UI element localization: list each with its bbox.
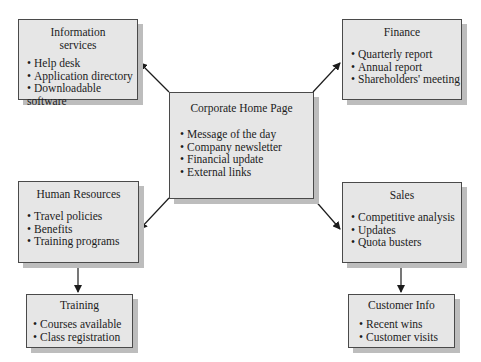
- list-item: Benefits: [27, 223, 138, 236]
- node-title: Information services: [19, 26, 137, 52]
- node-items: Message of the day Company newsletter Fi…: [170, 128, 313, 178]
- arrow-center-to-sales: [313, 198, 340, 229]
- list-item: Recent wins: [359, 318, 454, 331]
- list-item: Financial update: [180, 153, 313, 166]
- node-training: Training Courses available Class registr…: [26, 294, 133, 348]
- node-title: Customer Info: [349, 299, 454, 312]
- node-items: Courses available Class registration: [27, 318, 132, 343]
- node-title: Human Resources: [19, 188, 138, 201]
- node-corporate-home-page: Corporate Home Page Message of the day C…: [169, 92, 314, 199]
- list-item: Updates: [351, 224, 461, 237]
- node-information-services: Information services Help desk Applicati…: [18, 19, 138, 100]
- list-item: Quarterly report: [351, 48, 461, 61]
- node-items: Competitive analysis Updates Quota buste…: [343, 211, 461, 249]
- node-title: Sales: [343, 189, 461, 202]
- list-item: External links: [180, 166, 313, 179]
- arrow-center-to-human-resources: [140, 198, 169, 229]
- list-item: Downloadable software: [27, 82, 137, 107]
- arrow-center-to-finance: [313, 63, 340, 92]
- list-item: Message of the day: [180, 128, 313, 141]
- list-item: Class registration: [33, 331, 132, 344]
- title-line-2: services: [19, 39, 137, 52]
- node-items: Recent wins Customer visits: [349, 318, 454, 343]
- list-item: Customer visits: [359, 331, 454, 344]
- node-items: Help desk Application directory Download…: [19, 57, 137, 107]
- node-title: Finance: [343, 26, 461, 39]
- list-item: Application directory: [27, 70, 137, 83]
- node-title: Training: [27, 299, 132, 312]
- node-sales: Sales Competitive analysis Updates Quota…: [342, 182, 462, 263]
- node-human-resources: Human Resources Travel policies Benefits…: [18, 181, 139, 263]
- list-item: Quota busters: [351, 236, 461, 249]
- node-customer-info: Customer Info Recent wins Customer visit…: [348, 294, 455, 348]
- list-item: Courses available: [33, 318, 132, 331]
- node-items: Travel policies Benefits Training progra…: [19, 210, 138, 248]
- list-item: Training programs: [27, 235, 138, 248]
- list-item: Competitive analysis: [351, 211, 461, 224]
- title-line-1: Information: [19, 26, 137, 39]
- list-item: Company newsletter: [180, 141, 313, 154]
- arrow-center-to-info-services: [140, 63, 169, 92]
- node-finance: Finance Quarterly report Annual report S…: [342, 19, 462, 100]
- list-item: Annual report: [351, 61, 461, 74]
- list-item: Travel policies: [27, 210, 138, 223]
- node-title: Corporate Home Page: [170, 102, 313, 115]
- list-item: Help desk: [27, 57, 137, 70]
- node-items: Quarterly report Annual report Sharehold…: [343, 48, 461, 86]
- list-item: Shareholders' meeting: [351, 73, 461, 86]
